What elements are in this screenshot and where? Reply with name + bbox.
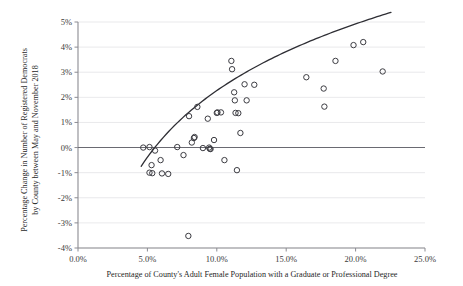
x-tick-label: 20.0% <box>345 254 367 264</box>
y-tick-label: 2% <box>61 92 72 102</box>
data-point <box>380 69 385 74</box>
trend-curve <box>141 12 391 166</box>
y-axis-title-line1: Percentage Change in Number of Registere… <box>20 48 29 232</box>
data-point <box>205 116 210 121</box>
data-point <box>361 39 366 44</box>
scatter-plot: -4%-3%-2%-1%0%1%2%3%4%5% 0.0%5.0%10.0%15… <box>0 0 463 286</box>
data-point <box>333 58 338 63</box>
y-tick-label: 3% <box>61 67 72 77</box>
y-tick-label: -4% <box>58 243 72 253</box>
y-axis-title-line2: by County between May and November 2018 <box>31 65 40 215</box>
trend-line <box>141 12 391 166</box>
x-tick-label: 0.0% <box>69 254 87 264</box>
data-point <box>166 171 171 176</box>
data-point <box>231 90 236 95</box>
x-tick-label: 10.0% <box>206 254 228 264</box>
y-tick-label: -1% <box>58 168 72 178</box>
x-axis-title: Percentage of County's Adult Female Popu… <box>107 270 398 279</box>
data-point <box>238 130 243 135</box>
data-point <box>252 82 257 87</box>
data-point <box>232 98 237 103</box>
y-tick-label: -2% <box>58 193 72 203</box>
y-tick-label: -3% <box>58 218 72 228</box>
data-point <box>229 58 234 63</box>
data-point <box>211 137 216 142</box>
data-points <box>141 39 386 238</box>
data-point <box>158 157 163 162</box>
axis-lines <box>78 22 425 248</box>
y-tick-label: 4% <box>61 42 72 52</box>
data-point <box>229 67 234 72</box>
data-point <box>234 167 239 172</box>
x-tick-label: 5.0% <box>139 254 157 264</box>
data-point <box>304 75 309 80</box>
y-tick-label: 1% <box>61 117 72 127</box>
data-point <box>321 86 326 91</box>
data-point <box>149 162 154 167</box>
chart-figure: -4%-3%-2%-1%0%1%2%3%4%5% 0.0%5.0%10.0%15… <box>0 0 463 286</box>
data-point <box>186 113 191 118</box>
data-point <box>242 82 247 87</box>
y-tick-label: 0% <box>61 143 72 153</box>
data-point <box>186 233 191 238</box>
y-tick-labels: -4%-3%-2%-1%0%1%2%3%4%5% <box>58 17 72 253</box>
data-point <box>159 171 164 176</box>
data-point <box>222 157 227 162</box>
gridlines <box>78 22 425 248</box>
y-tick-label: 5% <box>61 17 72 27</box>
data-point <box>181 152 186 157</box>
x-tick-labels: 0.0%5.0%10.0%15.0%20.0%25.0% <box>69 254 436 264</box>
x-tick-label: 15.0% <box>275 254 297 264</box>
data-point <box>244 98 249 103</box>
data-point <box>322 104 327 109</box>
x-tick-label: 25.0% <box>414 254 436 264</box>
